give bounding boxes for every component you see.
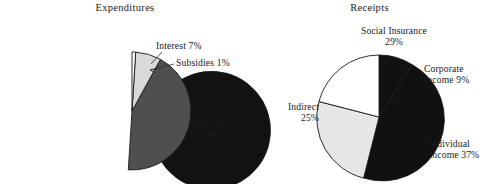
pie-label-transfer-value: 43% xyxy=(190,140,229,151)
pie-label-transfer-line2: Payments xyxy=(190,128,229,139)
pie-label-social-insurance-value: 29% xyxy=(330,36,458,47)
pie-label-interest: Interest 7% xyxy=(156,40,202,51)
chart-panel-receipts: Receipts Social Insurance 29% Corporate … xyxy=(248,0,491,184)
pie-label-corporate-line1: Corporate xyxy=(424,63,469,74)
pie-label-corporate-line2: Income 9% xyxy=(424,74,469,85)
pie-label-indirect-value: 25% xyxy=(288,112,319,123)
pie-label-social-insurance: Social Insurance 29% xyxy=(330,25,458,48)
pie-label-transfer-payments: Transfer Payments 43% xyxy=(190,117,229,151)
pie-label-individual-line2: Income 37% xyxy=(429,149,479,160)
pie-label-social-insurance-name: Social Insurance xyxy=(330,25,458,36)
pie-expenditures xyxy=(0,0,250,184)
chart-panel-expenditures: Expenditures Consumption 49% Interest 7%… xyxy=(0,0,250,184)
pie-label-indirect-name: Indirect xyxy=(288,101,319,112)
pie-label-corporate-income: Corporate Income 9% xyxy=(424,63,469,86)
pie-label-indirect: Indirect 25% xyxy=(288,101,319,124)
pie-label-transfer-line1: Transfer xyxy=(190,117,229,128)
pie-label-subsidies-text: Subsidies 1% xyxy=(176,57,230,68)
pie-label-individual-income: Individual Income 37% xyxy=(429,138,479,161)
pie-label-individual-line1: Individual xyxy=(429,138,479,149)
pie-label-interest-text: Interest 7% xyxy=(156,40,202,51)
pie-chart-figure: Expenditures Consumption 49% Interest 7%… xyxy=(0,0,491,184)
pie-label-subsidies: Subsidies 1% xyxy=(176,57,230,68)
